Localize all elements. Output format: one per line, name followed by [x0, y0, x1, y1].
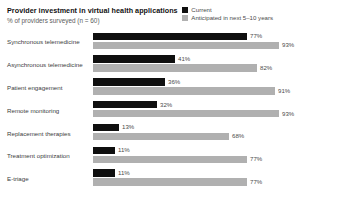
bar-anticipated	[93, 64, 257, 71]
bar-value-anticipated: 93%	[282, 111, 294, 117]
bar-line-anticipated: 91%	[93, 87, 351, 94]
bar-value-current: 77%	[250, 33, 262, 39]
bar-value-current: 11%	[118, 170, 130, 176]
bar-line-anticipated: 68%	[93, 133, 351, 140]
legend-item-anticipated: Anticipated in next 5–10 years	[182, 15, 273, 21]
chart-row: E-triage 11% 77%	[7, 167, 351, 190]
bar-value-anticipated: 91%	[278, 88, 290, 94]
bar-line-anticipated: 82%	[93, 64, 351, 71]
bar-line-current: 77%	[93, 33, 351, 40]
bar-anticipated	[93, 178, 247, 185]
bar-value-anticipated: 68%	[232, 133, 244, 139]
chart-row: Synchronous telemedicine 77% 93%	[7, 31, 351, 54]
category-label: Synchronous telemedicine	[7, 38, 93, 45]
bar-line-anticipated: 77%	[93, 178, 351, 185]
bar-value-anticipated: 93%	[282, 42, 294, 48]
bar-group: 32% 93%	[93, 101, 351, 120]
title-block: Provider investment in virtual health ap…	[7, 6, 178, 25]
chart-row: Remote monitoring 32% 93%	[7, 99, 351, 122]
bar-group: 36% 91%	[93, 78, 351, 97]
bar-value-current: 13%	[122, 124, 134, 130]
bar-current	[93, 55, 175, 62]
chart-legend: Current Anticipated in next 5–10 years	[182, 7, 273, 23]
bar-group: 77% 93%	[93, 33, 351, 52]
bar-value-current: 36%	[168, 79, 180, 85]
bar-value-current: 41%	[178, 56, 190, 62]
bar-value-anticipated: 82%	[260, 65, 272, 71]
chart-header: Provider investment in virtual health ap…	[7, 6, 351, 25]
category-label: E-triage	[7, 175, 93, 182]
bar-group: 11% 77%	[93, 147, 351, 166]
bar-value-current: 11%	[118, 147, 130, 153]
bar-group: 11% 77%	[93, 169, 351, 188]
bar-line-anticipated: 77%	[93, 156, 351, 163]
bar-current	[93, 78, 165, 85]
bar-value-current: 32%	[160, 102, 172, 108]
legend-item-current: Current	[182, 7, 273, 13]
chart-plot-area: Synchronous telemedicine 77% 93% Asynchr…	[7, 31, 351, 191]
bar-value-anticipated: 77%	[250, 179, 262, 185]
legend-swatch-current	[182, 7, 188, 13]
chart-container: Provider investment in virtual health ap…	[0, 0, 355, 199]
chart-row: Patient engagement 36% 91%	[7, 76, 351, 99]
legend-label-anticipated: Anticipated in next 5–10 years	[191, 15, 273, 21]
chart-subtitle: % of providers surveyed (n = 60)	[7, 17, 178, 25]
category-label: Remote monitoring	[7, 107, 93, 114]
category-label: Treatment optimization	[7, 152, 93, 159]
legend-label-current: Current	[191, 7, 211, 13]
bar-line-current: 32%	[93, 101, 351, 108]
bar-value-anticipated: 77%	[250, 156, 262, 162]
bar-current	[93, 33, 247, 40]
category-label: Patient engagement	[7, 84, 93, 91]
bar-line-current: 41%	[93, 55, 351, 62]
chart-row: Asynchronous telemedicine 41% 82%	[7, 53, 351, 76]
bar-line-current: 36%	[93, 78, 351, 85]
bar-line-current: 11%	[93, 147, 351, 154]
chart-row: Replacement therapies 13% 68%	[7, 122, 351, 145]
chart-title: Provider investment in virtual health ap…	[7, 6, 178, 15]
bar-anticipated	[93, 133, 229, 140]
category-label: Asynchronous telemedicine	[7, 61, 93, 68]
bar-line-current: 11%	[93, 169, 351, 176]
legend-swatch-anticipated	[182, 15, 188, 21]
bar-line-anticipated: 93%	[93, 42, 351, 49]
bar-current	[93, 169, 115, 176]
category-label: Replacement therapies	[7, 130, 93, 137]
bar-current	[93, 147, 115, 154]
bar-current	[93, 124, 119, 131]
bar-anticipated	[93, 42, 279, 49]
bar-group: 41% 82%	[93, 55, 351, 74]
bar-group: 13% 68%	[93, 124, 351, 143]
bar-anticipated	[93, 110, 279, 117]
bar-current	[93, 101, 157, 108]
bar-line-anticipated: 93%	[93, 110, 351, 117]
bar-line-current: 13%	[93, 124, 351, 131]
bar-anticipated	[93, 87, 275, 94]
chart-row: Treatment optimization 11% 77%	[7, 145, 351, 168]
bar-anticipated	[93, 156, 247, 163]
